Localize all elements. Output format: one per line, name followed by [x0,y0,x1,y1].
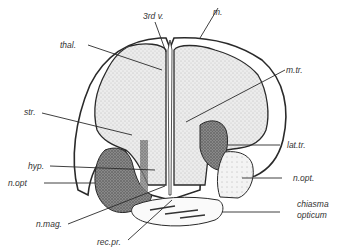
label-hyp: hyp. [28,162,44,171]
label-str: str. [24,108,36,117]
optic-chiasma [132,197,223,226]
label-lat-tr: lat.tr. [287,141,306,150]
label-thal: thal. [60,41,76,50]
label-chiasma: chiasma [297,200,329,209]
label-n-opt-right: n.opt. [293,174,314,183]
third-ventricle-cleft [168,40,172,195]
label-m: m. [213,8,222,17]
label-rec-pr: rec.pr. [97,238,121,247]
left-periventricular-column [140,140,148,195]
label-n-opt-left: n.opt [8,179,27,188]
label-third-ventricle: 3rd v. [143,12,164,21]
right-optic-nucleus [217,152,253,198]
label-n-mag: n.mag. [36,220,62,229]
brain-section-diagram [0,0,340,251]
label-m-tr: m.tr. [286,66,303,75]
label-opticum: opticum [297,211,327,220]
